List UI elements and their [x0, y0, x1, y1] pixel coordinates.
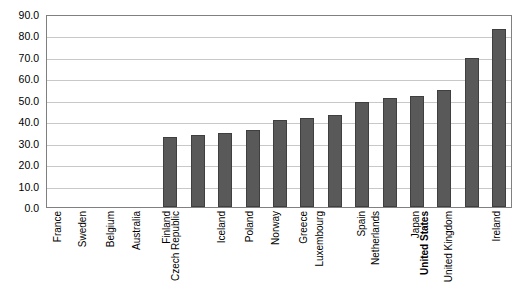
- y-axis-tick-label: 80.0: [0, 31, 39, 42]
- bar[interactable]: [355, 102, 369, 207]
- y-axis-tick-label: 20.0: [0, 160, 39, 171]
- bar-slot: [376, 14, 403, 207]
- x-axis-tick: Australia: [128, 209, 155, 297]
- bars-layer: [47, 16, 511, 207]
- bar-chart: 90.080.070.060.050.040.030.020.010.00.0 …: [0, 0, 532, 297]
- y-axis-tick-label: 10.0: [0, 181, 39, 192]
- plot-area: [46, 15, 512, 208]
- x-axis-label: United Kingdom: [435, 211, 462, 282]
- x-axis-tick: Iceland: [210, 209, 237, 297]
- bar[interactable]: [437, 90, 451, 207]
- y-axis-tick-label: 40.0: [0, 117, 39, 128]
- x-axis-tick: United Kingdom: [457, 209, 484, 297]
- bar-slot: [321, 14, 348, 207]
- bar-slot: [266, 14, 293, 207]
- bar[interactable]: [492, 29, 506, 207]
- y-axis: 90.080.070.060.050.040.030.020.010.00.0: [0, 0, 44, 297]
- bar-slot: [102, 14, 129, 207]
- y-axis-tick-label: 60.0: [0, 74, 39, 85]
- y-axis-tick-label: 70.0: [0, 53, 39, 64]
- bar-slot: [294, 14, 321, 207]
- bar-slot: [239, 14, 266, 207]
- bar-slot: [129, 14, 156, 207]
- x-axis-tick: Norway: [265, 209, 292, 297]
- x-axis-tick: Ireland: [485, 209, 512, 297]
- bar-slot: [74, 14, 101, 207]
- x-axis-label: Luxembourg: [306, 211, 333, 267]
- bar-slot: [184, 14, 211, 207]
- x-axis-tick: Luxembourg: [320, 209, 347, 297]
- bar[interactable]: [410, 96, 424, 208]
- bar[interactable]: [383, 98, 397, 207]
- bar-slot: [157, 14, 184, 207]
- bar[interactable]: [218, 133, 232, 207]
- x-axis-label: France: [44, 211, 71, 242]
- bar[interactable]: [163, 137, 177, 207]
- y-axis-tick-label: 50.0: [0, 96, 39, 107]
- bar-slot: [403, 14, 430, 207]
- x-axis-tick: Czech Republic: [183, 209, 210, 297]
- x-axis-label: Norway: [262, 211, 289, 245]
- x-axis-label: Ireland: [483, 211, 510, 242]
- bar[interactable]: [191, 135, 205, 207]
- x-axis-tick: Netherlands: [375, 209, 402, 297]
- x-axis-label: Poland: [236, 211, 263, 242]
- bar[interactable]: [300, 118, 314, 207]
- bar-slot: [47, 14, 74, 207]
- x-axis-label: Czech Republic: [162, 211, 189, 281]
- bar-slot: [431, 14, 458, 207]
- bar[interactable]: [246, 130, 260, 207]
- y-axis-tick-label: 90.0: [0, 10, 39, 21]
- x-axis-label: Belgium: [96, 211, 123, 247]
- x-axis-label: Sweden: [69, 211, 96, 247]
- bar-slot: [458, 14, 485, 207]
- x-axis-label: Netherlands: [362, 211, 389, 265]
- bar-slot: [349, 14, 376, 207]
- bar[interactable]: [273, 120, 287, 207]
- y-axis-tick-label: 30.0: [0, 138, 39, 149]
- bar-slot: [486, 14, 513, 207]
- x-axis-label: Australia: [122, 211, 149, 250]
- y-axis-tick-label: 0.0: [0, 203, 39, 214]
- x-axis-label: Iceland: [208, 211, 235, 243]
- bar-slot: [211, 14, 238, 207]
- x-axis: FranceSwedenBelgiumAustraliaFinlandCzech…: [46, 209, 512, 297]
- bar[interactable]: [328, 115, 342, 207]
- bar[interactable]: [465, 58, 479, 207]
